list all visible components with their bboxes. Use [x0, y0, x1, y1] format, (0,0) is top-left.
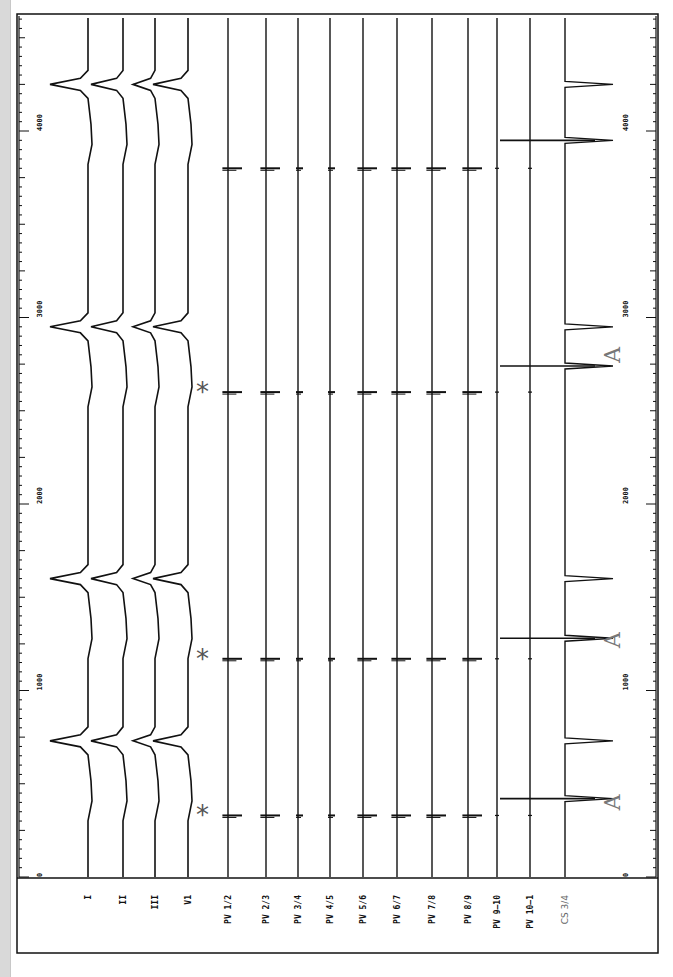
channel-label-pv34: PV 3/4 [294, 895, 303, 924]
time-tick-label: 0 [36, 873, 44, 877]
trace-pv101 [528, 18, 532, 877]
channel-label-pv23: PV 2/3 [262, 895, 271, 924]
channel-label-pv67: PV 6/7 [393, 895, 402, 924]
asterisk-marker: * [196, 644, 209, 674]
channel-label-cs34: CS 3/4 [560, 895, 570, 925]
trace-pv78 [426, 18, 446, 877]
trace-cs34 [500, 18, 613, 877]
channel-label-i: I [84, 895, 93, 900]
trace-pv910 [495, 18, 499, 877]
time-tick-label: 2000 [36, 487, 44, 504]
time-tick-label: 0 [622, 873, 630, 877]
trace-pv56 [357, 18, 377, 877]
channel-label-pv45: PV 4/5 [326, 895, 335, 924]
time-ruler-right: 01000200030004000 [622, 16, 656, 877]
time-tick-label: 1000 [36, 674, 44, 691]
time-tick-label: 3000 [622, 301, 630, 318]
asterisk-marker: * [196, 377, 209, 407]
trace-pv23 [260, 18, 280, 877]
atrial-marker-a: A [600, 346, 625, 364]
electrogram-figure: 01000200030004000 01000200030004000 IIII… [0, 0, 673, 977]
channel-label-iii: III [151, 895, 160, 910]
channel-label-pv78: PV 7/8 [428, 895, 437, 924]
trace-pv89 [462, 18, 482, 877]
asterisk-marker: * [196, 800, 209, 830]
trace-pv12 [222, 18, 242, 877]
channel-label-v1: V1 [184, 895, 193, 905]
channel-label-pv101: PV 10–1 [526, 895, 535, 929]
atrial-marker-a: A [600, 631, 625, 649]
figure-frame [17, 14, 658, 953]
time-tick-label: 2000 [622, 487, 630, 504]
time-tick-label: 1000 [622, 674, 630, 691]
channel-label-pv56: PV 5/6 [359, 895, 368, 924]
channel-label-pv89: PV 8/9 [464, 895, 473, 924]
channel-label-ii: II [119, 895, 128, 905]
channel-traces [50, 18, 613, 877]
annotations: ***AAA [196, 346, 625, 831]
trace-pv67 [391, 18, 411, 877]
channel-label-pv910: PV 9–10 [493, 895, 502, 929]
trace-pv45 [328, 18, 335, 877]
trace-iii [133, 18, 159, 877]
trace-pv34 [296, 18, 303, 877]
channel-label-pv12: PV 1/2 [224, 895, 233, 924]
time-tick-label: 3000 [36, 301, 44, 318]
channel-labels: IIIIIIV1PV 1/2PV 2/3PV 3/4PV 4/5PV 5/6PV… [84, 895, 570, 929]
atrial-marker-a: A [600, 793, 625, 811]
trace-i [50, 18, 92, 877]
time-ruler-left: 01000200030004000 [19, 16, 44, 877]
trace-ii [91, 18, 127, 877]
time-tick-label: 4000 [36, 114, 44, 131]
time-tick-label: 4000 [622, 114, 630, 131]
